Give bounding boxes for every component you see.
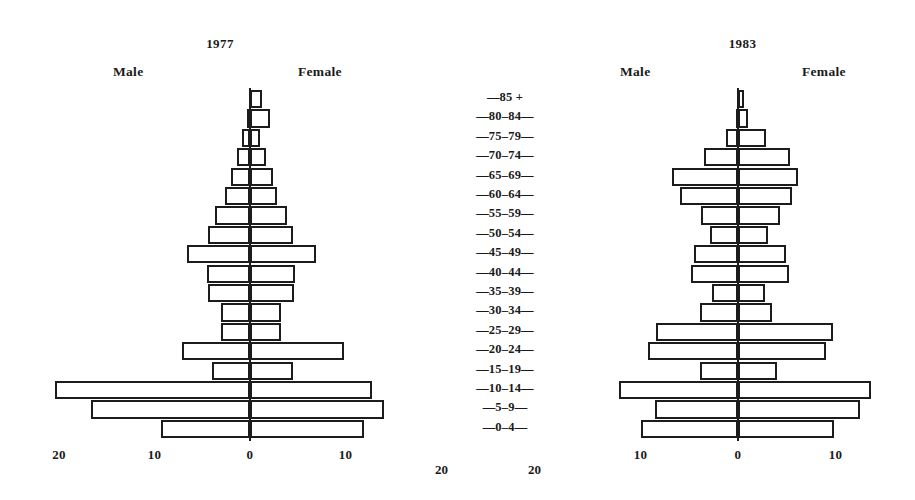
bar-male: [655, 400, 738, 418]
age-group-label: —40–44—: [440, 265, 570, 280]
bar-female: [738, 129, 766, 147]
age-group-label: —55–59—: [440, 206, 570, 221]
bar-male: [207, 265, 250, 283]
age-group-label: —65–69—: [440, 168, 570, 183]
female-label-1977: Female: [298, 64, 342, 80]
x-tick-label: 10: [621, 447, 661, 463]
bar-male: [704, 148, 738, 166]
bar-female: [738, 342, 826, 360]
bar-male: [619, 381, 738, 399]
bar-female: [250, 206, 287, 224]
age-group-label: —30–34—: [440, 303, 570, 318]
age-group-label: —80–84—: [440, 109, 570, 124]
bar-female: [738, 284, 765, 302]
age-group-label: —75–79—: [440, 129, 570, 144]
bar-female: [250, 381, 372, 399]
bar-female: [738, 323, 833, 341]
age-group-label: —70–74—: [440, 148, 570, 163]
mid-tick-right: 20: [528, 462, 541, 478]
bar-male: [672, 168, 738, 186]
bar-male: [161, 420, 250, 438]
bar-male: [694, 245, 738, 263]
bar-male: [221, 323, 250, 341]
bar-male: [656, 323, 738, 341]
bar-male: [648, 342, 738, 360]
bar-male: [701, 206, 738, 224]
bar-male: [710, 226, 738, 244]
chart-title-1983: 1983: [570, 36, 915, 52]
bar-male: [712, 284, 738, 302]
bar-female: [250, 226, 293, 244]
x-tick-label: 10: [816, 447, 856, 463]
age-group-label: —45–49—: [440, 245, 570, 260]
bar-male: [208, 226, 250, 244]
bar-female: [738, 168, 798, 186]
female-label-1983: Female: [802, 64, 846, 80]
age-group-label: —15–19—: [440, 362, 570, 377]
male-label-1983: Male: [620, 64, 650, 80]
bar-female: [250, 284, 294, 302]
bar-female: [250, 342, 344, 360]
chart-title-1977: 1977: [0, 36, 440, 52]
bar-female: [250, 168, 273, 186]
plot-area-1983: 10010: [570, 88, 915, 456]
age-group-label: —25–29—: [440, 323, 570, 338]
bar-male: [215, 206, 250, 224]
bar-female: [250, 90, 262, 108]
bar-female: [250, 109, 270, 127]
age-group-label: —85 +: [440, 90, 570, 105]
bar-male: [231, 168, 250, 186]
age-group-label: —5–9—: [440, 400, 570, 415]
age-group-label: —20–24—: [440, 342, 570, 357]
age-group-label: —60–64—: [440, 187, 570, 202]
bar-male: [700, 303, 738, 321]
bar-female: [738, 303, 772, 321]
bar-male: [182, 342, 250, 360]
plot-area-1977: 2010010: [0, 88, 440, 456]
bar-female: [738, 245, 786, 263]
bar-male: [242, 129, 250, 147]
bar-female: [250, 265, 295, 283]
bar-female: [250, 303, 281, 321]
bar-female: [250, 420, 364, 438]
bar-female: [738, 206, 780, 224]
mid-tick-left: 20: [435, 462, 448, 478]
bar-male: [237, 148, 250, 166]
bar-male: [221, 303, 250, 321]
age-group-label: —50–54—: [440, 226, 570, 241]
age-group-axis: —85 +—80–84——75–79——70–74——65–69——60–64—…: [440, 0, 570, 500]
bar-female: [738, 400, 860, 418]
x-tick-label: 0: [230, 447, 270, 463]
x-tick-label: 10: [135, 447, 175, 463]
bar-male: [225, 187, 250, 205]
male-label-1977: Male: [113, 64, 143, 80]
bar-male: [680, 187, 738, 205]
bar-female: [250, 400, 384, 418]
x-tick-label: 20: [39, 447, 79, 463]
bar-male: [212, 362, 250, 380]
bar-female: [250, 323, 281, 341]
bar-female: [250, 245, 316, 263]
bar-female: [250, 148, 266, 166]
bar-female: [738, 226, 768, 244]
bar-male: [700, 362, 738, 380]
bar-male: [726, 129, 738, 147]
bar-female: [250, 362, 293, 380]
bar-male: [208, 284, 250, 302]
bar-female: [738, 148, 790, 166]
age-group-label: —0–4—: [440, 420, 570, 435]
bar-male: [187, 245, 250, 263]
x-tick-label: 10: [326, 447, 366, 463]
bar-female: [738, 265, 789, 283]
bar-female: [738, 420, 834, 438]
bar-male: [691, 265, 738, 283]
bar-female: [250, 187, 277, 205]
bar-female: [738, 381, 871, 399]
population-pyramid-figure: 1977 Male Female 2010010 —85 +—80–84——75…: [0, 0, 915, 500]
bar-female: [738, 109, 748, 127]
bar-female: [738, 362, 777, 380]
bar-male: [91, 400, 250, 418]
age-group-label: —10–14—: [440, 381, 570, 396]
bar-male: [55, 381, 250, 399]
bar-female: [738, 90, 744, 108]
